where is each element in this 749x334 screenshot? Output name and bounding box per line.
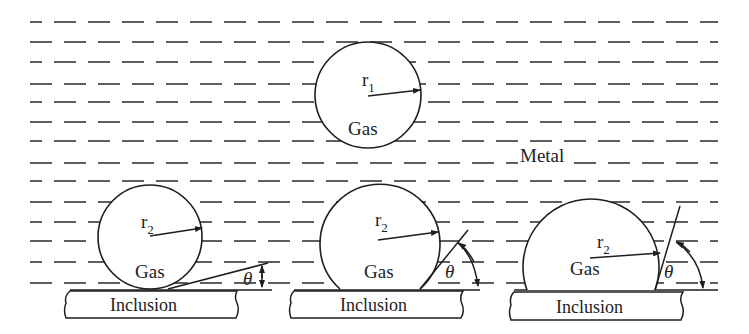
gas-label: Gas	[364, 261, 394, 282]
metal-label-group: Metal	[518, 145, 570, 166]
gas-label: Gas	[135, 261, 165, 282]
theta-label: θ	[243, 268, 252, 289]
angle-arrow-icon	[676, 242, 703, 288]
inclusion-label: Inclusion	[110, 295, 177, 315]
free-gas-bubble: r1 Gas	[315, 42, 421, 148]
inclusion-label: Inclusion	[556, 297, 623, 317]
gas-label: Gas	[570, 258, 600, 279]
gas-label: Gas	[348, 118, 378, 139]
inclusion-label: Inclusion	[340, 295, 407, 315]
angle-arrow-icon	[458, 243, 478, 286]
theta-label: θ	[664, 261, 673, 282]
metal-label: Metal	[520, 145, 564, 166]
attached-bubble-large-angle: r2 Gas θ Inclusion	[500, 199, 720, 320]
theta-label: θ	[445, 261, 454, 282]
attached-bubble-medium-angle: r2 Gas θ Inclusion	[286, 184, 482, 318]
gas-bubble-wetting-diagram: Metal r1 Gas r2 Gas θ Inclusion r2 Gas	[0, 0, 749, 334]
attached-bubble-small-angle: r2 Gas θ Inclusion	[60, 185, 274, 318]
